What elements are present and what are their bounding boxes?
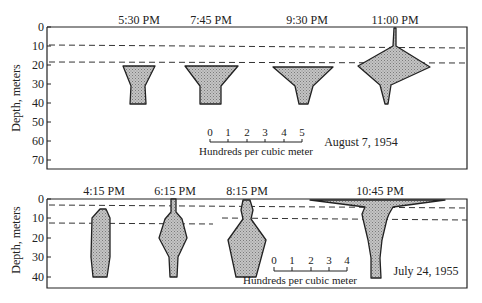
bottom-time-label: 6:15 PM: [154, 184, 196, 198]
bottom-dashed-line-lower-left: [49, 223, 213, 224]
bottom-scale-tick: 2: [308, 254, 314, 266]
profile-815pm: [228, 200, 266, 277]
bottom-scale-tick: 3: [326, 254, 332, 266]
top-y-tick: 10: [32, 39, 44, 53]
profile-1100pm: [358, 28, 430, 104]
top-scale-tick: 4: [281, 126, 287, 138]
bottom-y-tick: 40: [32, 270, 44, 284]
bottom-y-tick: 10: [32, 211, 44, 225]
bottom-time-label: 8:15 PM: [226, 184, 268, 198]
top-y-tick: 30: [32, 77, 44, 91]
top-y-tick: 0: [38, 20, 44, 34]
top-y-tick: 40: [32, 96, 44, 110]
top-scale-tick: 0: [207, 126, 213, 138]
bottom-scale-tick: 1: [289, 254, 295, 266]
top-scale-tick: 3: [262, 126, 268, 138]
profile-745pm: [185, 66, 238, 104]
top-scale-bar: 0 1 2 3 4 5 Hundreds per cubic meter: [199, 126, 313, 157]
top-dashed-line-upper: [49, 45, 467, 48]
top-y-tick: 60: [32, 134, 44, 148]
top-y-tick: 70: [32, 153, 44, 167]
bottom-y-tick: 0: [38, 192, 44, 206]
figure: 0 10 20 30 40 50 60 70 Depth, meters 5:3…: [0, 0, 482, 303]
top-panel: 0 10 20 30 40 50 60 70 Depth, meters 5:3…: [9, 13, 467, 169]
top-scale-tick: 1: [225, 126, 231, 138]
bottom-scale-tick: 4: [344, 254, 350, 266]
bottom-time-label: 4:15 PM: [83, 184, 125, 198]
top-y-tick: 50: [32, 115, 44, 129]
profile-415pm: [91, 209, 110, 277]
bottom-y-tick: 30: [32, 250, 44, 264]
profile-615pm: [159, 199, 187, 277]
bottom-scale-label: Hundreds per cubic meter: [243, 274, 357, 286]
top-time-label: 5:30 PM: [118, 13, 160, 27]
top-y-tick: 20: [32, 58, 44, 72]
bottom-y-axis-label: Depth, meters: [9, 206, 23, 274]
top-y-axis-label: Depth, meters: [9, 64, 23, 132]
bottom-y-tick: 20: [32, 231, 44, 245]
top-time-label: 7:45 PM: [190, 13, 232, 27]
top-scale-tick: 2: [244, 126, 250, 138]
bottom-scale-tick: 0: [271, 254, 277, 266]
profile-530pm: [123, 66, 155, 104]
top-panel-date: August 7, 1954: [324, 135, 398, 149]
top-scale-tick: 5: [299, 126, 305, 138]
profile-930pm: [273, 67, 333, 104]
bottom-dashed-line-lower-right: [222, 218, 467, 220]
top-time-label: 11:00 PM: [371, 13, 419, 27]
bottom-time-label: 10:45 PM: [356, 184, 404, 198]
top-scale-label: Hundreds per cubic meter: [199, 145, 313, 157]
top-time-label: 9:30 PM: [286, 13, 328, 27]
bottom-panel-date: July 24, 1955: [393, 264, 458, 278]
bottom-panel: 0 10 20 30 40 Depth, meters 4:15 PM 6:15…: [9, 184, 467, 288]
